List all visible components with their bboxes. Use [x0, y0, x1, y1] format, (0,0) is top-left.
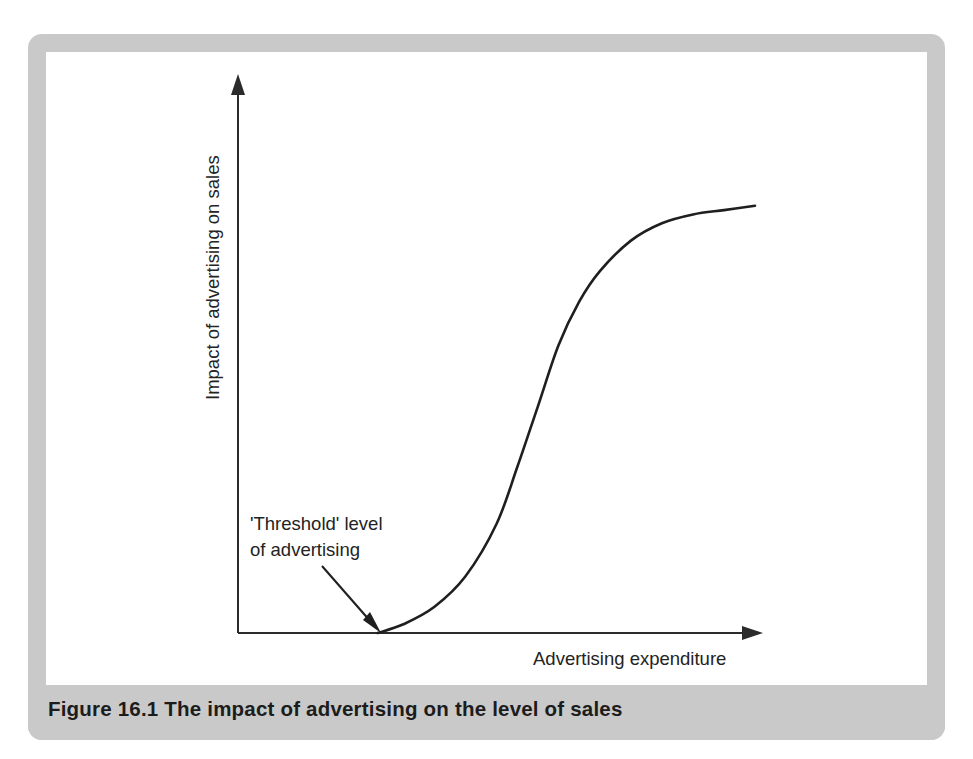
plot-panel [46, 52, 927, 685]
figure-container: Impact of advertising on sales Advertisi… [0, 0, 973, 759]
figure-caption-band: Figure 16.1 The impact of advertising on… [28, 685, 945, 740]
figure-caption: Figure 16.1 The impact of advertising on… [48, 697, 623, 721]
